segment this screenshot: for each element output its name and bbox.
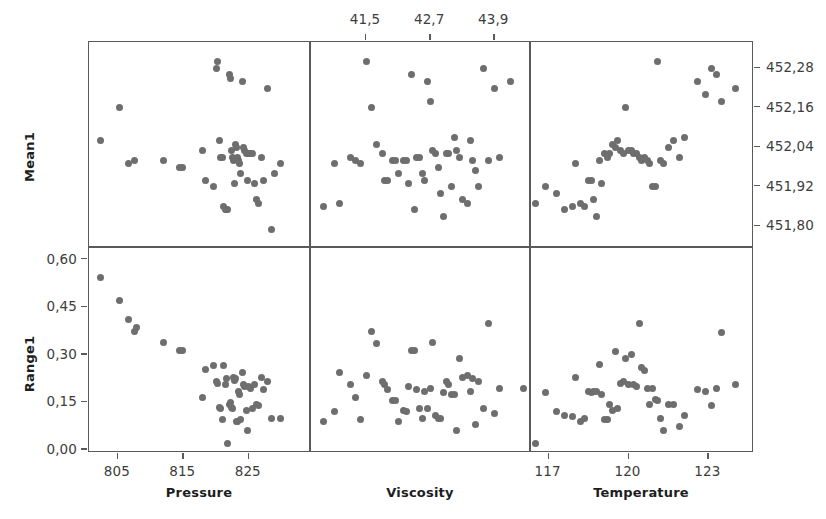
y-range1-3-tick-mark bbox=[81, 401, 87, 402]
data-point bbox=[411, 347, 418, 354]
data-point bbox=[437, 190, 444, 197]
data-point bbox=[448, 183, 455, 190]
data-point bbox=[236, 391, 243, 398]
data-point bbox=[249, 150, 256, 157]
data-point bbox=[373, 340, 380, 347]
data-point bbox=[472, 167, 479, 174]
data-point bbox=[131, 157, 138, 164]
data-point bbox=[596, 157, 603, 164]
data-point bbox=[496, 154, 503, 161]
data-point bbox=[416, 154, 423, 161]
data-point bbox=[654, 397, 661, 404]
data-point bbox=[373, 141, 380, 148]
data-point bbox=[268, 415, 275, 422]
panel-mean1-viscosity bbox=[310, 42, 529, 246]
axis-title-mean1: Mean1 bbox=[22, 132, 37, 182]
data-point bbox=[588, 177, 595, 184]
y-mean1-1-tick-mark bbox=[754, 106, 760, 107]
data-point bbox=[694, 386, 701, 393]
data-point bbox=[440, 213, 447, 220]
data-point bbox=[532, 440, 539, 447]
data-point bbox=[553, 408, 560, 415]
axis-title-range1: Range1 bbox=[22, 336, 37, 392]
data-point bbox=[320, 203, 327, 210]
data-point bbox=[429, 339, 436, 346]
y-mean1-1-tick-label: 452,16 bbox=[766, 99, 814, 115]
data-point bbox=[480, 65, 487, 72]
data-point bbox=[469, 157, 476, 164]
data-point bbox=[405, 383, 412, 390]
data-point bbox=[553, 190, 560, 197]
data-point bbox=[223, 375, 230, 382]
data-point bbox=[718, 98, 725, 105]
axis-title-temperature: Temperature bbox=[593, 485, 689, 500]
y-range1-0-tick-label: 0,60 bbox=[47, 251, 77, 267]
data-point bbox=[97, 137, 104, 144]
data-point bbox=[475, 378, 482, 385]
y-range1-4-tick-mark bbox=[81, 448, 87, 449]
data-point bbox=[507, 78, 514, 85]
data-point bbox=[713, 385, 720, 392]
data-point bbox=[569, 413, 576, 420]
data-point bbox=[628, 351, 635, 358]
data-point bbox=[654, 58, 661, 65]
data-point bbox=[657, 415, 664, 422]
data-point bbox=[258, 154, 265, 161]
data-point bbox=[496, 385, 503, 392]
data-point bbox=[612, 348, 619, 355]
data-point bbox=[622, 104, 629, 111]
data-point bbox=[646, 160, 653, 167]
data-point bbox=[229, 405, 236, 412]
data-point bbox=[713, 71, 720, 78]
data-point bbox=[598, 180, 605, 187]
data-point bbox=[467, 388, 474, 395]
y-range1-0-tick-mark bbox=[81, 258, 87, 259]
data-point bbox=[395, 418, 402, 425]
data-point bbox=[598, 391, 605, 398]
data-point bbox=[199, 394, 206, 401]
data-point bbox=[467, 137, 474, 144]
axis-title-pressure: Pressure bbox=[166, 485, 232, 500]
data-point bbox=[357, 416, 364, 423]
data-point bbox=[210, 183, 217, 190]
data-point bbox=[421, 177, 428, 184]
data-point bbox=[485, 320, 492, 327]
data-point bbox=[424, 78, 431, 85]
panel-mean1-temperature bbox=[530, 42, 751, 246]
data-point bbox=[352, 394, 359, 401]
data-point bbox=[427, 385, 434, 392]
data-point bbox=[224, 440, 231, 447]
data-point bbox=[239, 78, 246, 85]
data-point bbox=[419, 415, 426, 422]
data-point bbox=[590, 196, 597, 203]
data-point bbox=[681, 134, 688, 141]
data-point bbox=[604, 416, 611, 423]
data-point bbox=[232, 375, 239, 382]
y-range1-1-tick-label: 0,45 bbox=[47, 298, 77, 314]
data-point bbox=[732, 85, 739, 92]
data-point bbox=[660, 427, 667, 434]
x-viscosity-0-tick-mark bbox=[365, 34, 366, 40]
data-point bbox=[572, 160, 579, 167]
data-point bbox=[213, 65, 220, 72]
y-mean1-3-tick-mark bbox=[754, 185, 760, 186]
data-point bbox=[413, 386, 420, 393]
data-point bbox=[456, 154, 463, 161]
data-point bbox=[435, 164, 442, 171]
data-point bbox=[593, 213, 600, 220]
data-point bbox=[179, 164, 186, 171]
y-range1-3-tick-label: 0,15 bbox=[47, 393, 77, 409]
data-point bbox=[403, 408, 410, 415]
data-point bbox=[379, 150, 386, 157]
data-point bbox=[676, 154, 683, 161]
data-point bbox=[216, 137, 223, 144]
data-point bbox=[569, 203, 576, 210]
x-temperature-1-tick-label: 120 bbox=[614, 463, 640, 479]
data-point bbox=[331, 160, 338, 167]
data-point bbox=[244, 177, 251, 184]
data-point bbox=[268, 226, 275, 233]
data-point bbox=[405, 180, 412, 187]
data-point bbox=[581, 203, 588, 210]
x-temperature-2-tick-mark bbox=[707, 453, 708, 459]
data-point bbox=[222, 381, 229, 388]
